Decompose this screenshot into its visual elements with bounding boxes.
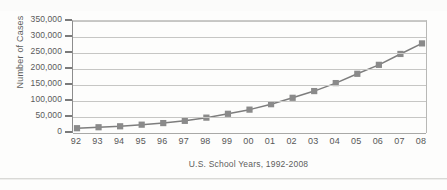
data-point-marker: 96: 31,000 xyxy=(160,120,166,126)
plot-area: 92: 15,00093: 18,00094: 21,00095: 26,000… xyxy=(72,20,427,133)
gridline xyxy=(73,117,426,118)
x-axis-tick-label: 99 xyxy=(216,136,238,146)
y-axis-tick-label: 150,000 xyxy=(31,78,62,88)
y-axis-tick-label: 350,000 xyxy=(31,14,62,24)
x-axis-tick-label: 94 xyxy=(108,136,130,146)
x-axis-tick-label: 04 xyxy=(324,136,346,146)
x-axis-tick-label: 01 xyxy=(259,136,281,146)
y-axis-tick-mark xyxy=(65,19,72,21)
x-axis-tick-label: 03 xyxy=(302,136,324,146)
x-axis-tick-label: 93 xyxy=(87,136,109,146)
data-point-marker: 97: 38,000 xyxy=(182,118,188,124)
y-axis-tick-mark xyxy=(65,99,72,101)
data-point-marker: 01: 90,000 xyxy=(268,101,274,107)
data-point-marker: 05: 185,000 xyxy=(354,71,360,77)
data-point-marker: 93: 18,000 xyxy=(95,124,101,130)
gridline xyxy=(73,85,426,86)
gridline xyxy=(73,53,426,54)
x-axis-tick-label: 00 xyxy=(238,136,260,146)
y-axis-tick-label: 250,000 xyxy=(31,46,62,56)
x-axis-tick-label: 97 xyxy=(173,136,195,146)
x-axis-tick-label: 98 xyxy=(194,136,216,146)
page-divider-shadow xyxy=(0,179,447,180)
gridline xyxy=(73,37,426,38)
gridline xyxy=(73,69,426,70)
gridline xyxy=(73,21,426,22)
y-axis-tick-group: 050,000100,000150,000200,000250,000300,0… xyxy=(0,0,72,190)
y-axis-tick-mark xyxy=(65,115,72,117)
x-axis-tick-label: 08 xyxy=(410,136,432,146)
data-point-marker: 95: 26,000 xyxy=(139,122,145,128)
data-point-marker: 94: 21,000 xyxy=(117,123,123,129)
data-point-marker: 06: 213,000 xyxy=(376,62,382,68)
data-point-marker: 08: 280,000 xyxy=(419,40,425,46)
x-axis-tick-label: 95 xyxy=(130,136,152,146)
y-axis-tick-mark xyxy=(65,35,72,37)
gridline xyxy=(73,133,426,134)
gridline xyxy=(73,101,426,102)
x-axis-title: U.S. School Years, 1992-2008 xyxy=(72,159,425,169)
y-axis-tick-label: 300,000 xyxy=(31,30,62,40)
x-axis-tick-group: 9293949596979899000102030405060708 xyxy=(72,136,425,154)
data-point-marker: 03: 131,000 xyxy=(311,88,317,94)
y-axis-tick-mark xyxy=(65,83,72,85)
y-axis-tick-label: 50,000 xyxy=(35,110,62,120)
x-axis-tick-label: 06 xyxy=(367,136,389,146)
x-axis-tick-label: 05 xyxy=(345,136,367,146)
x-axis-tick-label: 07 xyxy=(388,136,410,146)
data-point-marker: 99: 60,000 xyxy=(225,111,231,117)
x-axis-tick-label: 96 xyxy=(151,136,173,146)
x-axis-tick-label: 92 xyxy=(65,136,87,146)
y-axis-tick-mark xyxy=(65,67,72,69)
y-axis-tick-label: 100,000 xyxy=(31,94,62,104)
y-axis-tick-mark xyxy=(65,51,72,53)
data-point-marker: 00: 73,000 xyxy=(246,107,252,113)
data-point-marker: 92: 15,000 xyxy=(74,125,80,131)
chart-figure: Number of Cases 050,000100,000150,000200… xyxy=(0,0,447,190)
y-axis-tick-label: 200,000 xyxy=(31,62,62,72)
x-axis-tick-label: 02 xyxy=(281,136,303,146)
data-point-marker: 02: 110,000 xyxy=(290,95,296,101)
y-axis-tick-label: 0 xyxy=(57,126,62,136)
y-axis-tick-mark xyxy=(65,131,72,133)
